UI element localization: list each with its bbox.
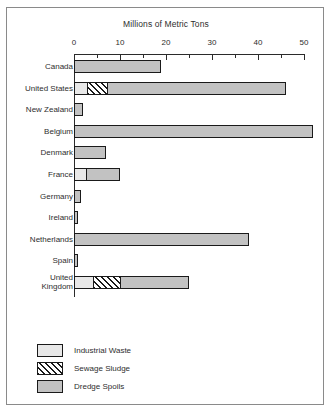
legend-swatch-industrial: [37, 344, 63, 357]
bar-segment-dredge[interactable]: [75, 147, 105, 158]
bar-row: New Zealand: [7, 103, 325, 116]
bar-segment-dredge[interactable]: [107, 83, 285, 94]
x-axis-minor-tick: [281, 54, 282, 58]
category-label: UnitedKingdom: [0, 273, 73, 291]
category-label: New Zealand: [0, 105, 73, 114]
legend-label: Industrial Waste: [74, 346, 131, 355]
stacked-bar[interactable]: [74, 211, 78, 224]
chart-frame: Millions of Metric Tons 01020304050 Cana…: [6, 7, 324, 405]
category-label: Germany: [0, 192, 73, 201]
legend-label: Sewage Sludge: [74, 364, 130, 373]
stacked-bar[interactable]: [74, 190, 81, 203]
bar-row: Ireland: [7, 211, 325, 224]
bar-row: UnitedKingdom: [7, 276, 325, 289]
stacked-bar[interactable]: [74, 233, 249, 246]
legend-swatch-dredge: [37, 380, 63, 393]
bar-row: Spain: [7, 254, 325, 267]
category-label: United States: [0, 84, 73, 93]
bar-segment-industrial[interactable]: [75, 169, 86, 180]
bar-row: Denmark: [7, 146, 325, 159]
bar-segment-sewage[interactable]: [93, 277, 120, 288]
bar-segment-dredge[interactable]: [75, 255, 77, 266]
x-axis-minor-tick: [235, 54, 236, 58]
x-axis-tick-label: 10: [108, 38, 132, 47]
bar-row: United States: [7, 82, 325, 95]
stacked-bar[interactable]: [74, 254, 78, 267]
stacked-bar[interactable]: [74, 146, 106, 159]
bar-segment-dredge[interactable]: [75, 126, 312, 137]
legend-item[interactable]: Industrial Waste: [37, 341, 131, 359]
x-axis-minor-tick: [97, 54, 98, 58]
bar-row: Canada: [7, 60, 325, 73]
category-label: Ireland: [0, 213, 73, 222]
legend-item[interactable]: Dredge Spoils: [37, 377, 131, 395]
stacked-bar[interactable]: [74, 125, 313, 138]
bar-segment-sewage[interactable]: [87, 83, 107, 94]
bar-segment-industrial[interactable]: [75, 83, 87, 94]
bar-segment-dredge[interactable]: [75, 104, 82, 115]
x-axis-minor-tick: [143, 54, 144, 58]
category-label: Spain: [0, 256, 73, 265]
bar-row: France: [7, 168, 325, 181]
bar-segment-dredge[interactable]: [75, 191, 80, 202]
x-axis-minor-tick: [189, 54, 190, 58]
category-label: Denmark: [0, 148, 73, 157]
category-label: France: [0, 170, 73, 179]
stacked-bar[interactable]: [74, 276, 189, 289]
bar-row: Netherlands: [7, 233, 325, 246]
stacked-bar[interactable]: [74, 103, 83, 116]
x-axis-tick-label: 40: [246, 38, 270, 47]
category-label: Canada: [0, 62, 73, 71]
category-label: Netherlands: [0, 235, 73, 244]
category-label: Belgium: [0, 127, 73, 136]
bar-segment-dredge[interactable]: [86, 169, 119, 180]
bar-row: Germany: [7, 190, 325, 203]
bar-segment-dredge[interactable]: [75, 61, 160, 72]
legend-item[interactable]: Sewage Sludge: [37, 359, 131, 377]
bar-segment-dredge[interactable]: [75, 212, 77, 223]
stacked-bar[interactable]: [74, 82, 286, 95]
legend-label: Dredge Spoils: [74, 382, 124, 391]
bar-segment-dredge[interactable]: [120, 277, 188, 288]
bar-segment-industrial[interactable]: [75, 277, 93, 288]
x-axis-tick-label: 0: [62, 38, 86, 47]
stacked-bar[interactable]: [74, 60, 161, 73]
x-axis-tick-label: 50: [292, 38, 316, 47]
bar-row: Belgium: [7, 125, 325, 138]
stacked-bar[interactable]: [74, 168, 120, 181]
x-axis-tick-label: 20: [154, 38, 178, 47]
chart-legend: Industrial WasteSewage SludgeDredge Spoi…: [37, 341, 131, 395]
bar-segment-dredge[interactable]: [75, 234, 248, 245]
legend-swatch-sewage: [37, 362, 63, 375]
x-axis-tick-label: 30: [200, 38, 224, 47]
